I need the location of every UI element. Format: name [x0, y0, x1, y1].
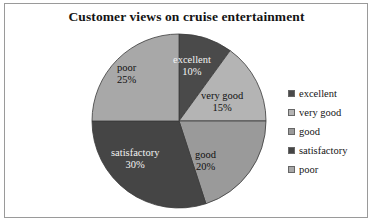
- legend-item-very-good[interactable]: very good: [288, 103, 370, 122]
- legend-item-label: poor: [299, 164, 318, 175]
- legend-item-label: satisfactory: [299, 145, 347, 156]
- legend-item-label: good: [299, 126, 320, 137]
- pie-slice-poor[interactable]: [92, 34, 179, 121]
- pie-chart-figure: Customer views on cruise entertainment e…: [0, 0, 373, 223]
- legend-swatch-icon: [288, 109, 295, 116]
- legend-item-good[interactable]: good: [288, 122, 370, 141]
- legend-swatch-icon: [288, 166, 295, 173]
- legend-swatch-icon: [288, 90, 295, 97]
- legend-item-satisfactory[interactable]: satisfactory: [288, 141, 370, 160]
- legend-item-label: excellent: [299, 88, 337, 99]
- legend-swatch-icon: [288, 147, 295, 154]
- legend-item-label: very good: [299, 107, 341, 118]
- pie-chart-svg: [91, 33, 267, 209]
- chart-title: Customer views on cruise entertainment: [0, 9, 373, 25]
- legend-item-poor[interactable]: poor: [288, 160, 370, 179]
- legend-swatch-icon: [288, 128, 295, 135]
- chart-legend: excellentvery goodgoodsatisfactorypoor: [288, 84, 370, 179]
- pie-chart-plot-area: excellent10%very good15%good20%satisfact…: [91, 33, 267, 209]
- legend-item-excellent[interactable]: excellent: [288, 84, 370, 103]
